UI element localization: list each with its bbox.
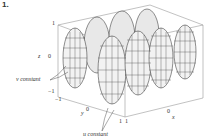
x-tick-1: 1	[125, 118, 128, 124]
x-tick-0: 0	[167, 108, 170, 114]
z-tick-neg1: −1	[48, 88, 54, 94]
z-tick-1: 1	[52, 20, 55, 26]
y-tick-neg1: −1	[55, 96, 61, 102]
z-axis-label: z	[38, 53, 40, 59]
y-axis-label: y	[81, 110, 84, 116]
surface-plot	[0, 0, 207, 139]
z-tick-0: 0	[48, 53, 51, 59]
y-tick-1: 1	[119, 118, 122, 124]
v-constant-label: v constant	[16, 76, 41, 82]
u-constant-label: u constant	[83, 131, 108, 137]
y-tick-0: 0	[86, 106, 89, 112]
x-axis-label: x	[172, 114, 175, 120]
